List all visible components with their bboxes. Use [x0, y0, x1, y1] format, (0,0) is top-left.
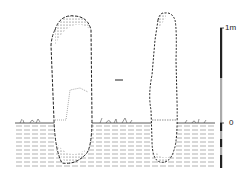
- scale-bar: [220, 28, 224, 168]
- soil-hatching: [15, 124, 215, 168]
- standing-stones-drawing: [0, 0, 251, 177]
- scale-top-label: 1m: [225, 24, 236, 32]
- vegetation-tufts: [20, 118, 206, 123]
- right-standing-stone: [150, 13, 177, 162]
- scale-ground-label: 0: [229, 119, 233, 127]
- left-standing-stone: [51, 16, 92, 164]
